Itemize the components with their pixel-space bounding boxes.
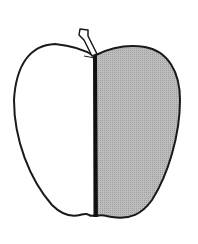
apple-divider [94,56,98,217]
apple-illustration [0,0,198,244]
apple-right-half [96,46,180,218]
apple-icon [0,0,198,244]
apple-left-half [14,44,95,216]
